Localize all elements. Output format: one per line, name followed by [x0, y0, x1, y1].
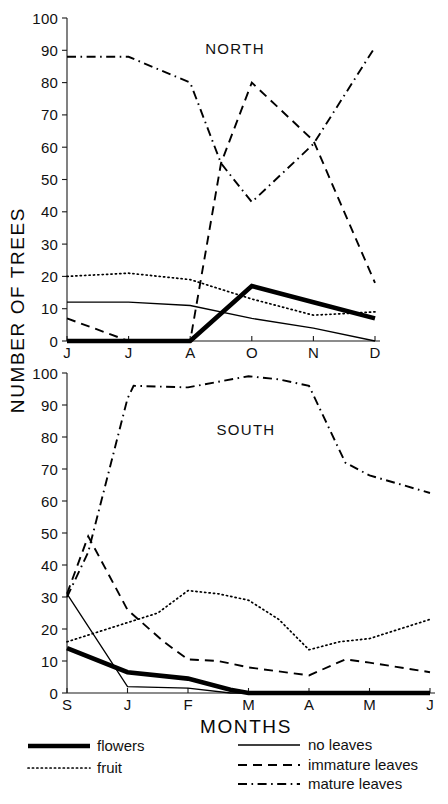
x-tick-label: M: [242, 696, 255, 713]
x-tick-label: D: [370, 344, 381, 361]
y-tick-label: 80: [41, 74, 58, 91]
y-tick-label: 30: [41, 589, 58, 606]
x-tick-label: S: [62, 696, 72, 713]
legend-label-fruit: fruit: [97, 759, 123, 776]
y-tick-label: 20: [41, 621, 58, 638]
y-tick-label: 30: [41, 236, 58, 253]
series-line-fruit-north: [67, 273, 375, 315]
panel-north: 0102030405060708090100JJAONDNORTH: [32, 10, 380, 362]
legend-label-mature-leaves: mature leaves: [308, 775, 402, 792]
y-tick-label: 80: [41, 429, 58, 446]
series-line-mature-leaves-north: [67, 47, 375, 202]
x-tick-label: N: [308, 344, 319, 361]
chart-svg: 0102030405060708090100JJAONDNORTH 010203…: [0, 0, 448, 804]
x-tick-label: O: [246, 344, 258, 361]
series-line-fruit-south: [67, 591, 430, 650]
figure-container: 0102030405060708090100JJAONDNORTH 010203…: [0, 0, 448, 804]
series-line-flowers-north: [67, 286, 375, 341]
x-tick-label: J: [63, 344, 71, 361]
panel-south: 0102030405060708090100SJFMAMJSOUTH: [32, 365, 435, 714]
x-tick-label: J: [124, 696, 132, 713]
y-tick-label: 10: [41, 653, 58, 670]
legend-label-immature-leaves: immature leaves: [308, 756, 418, 773]
y-tick-label: 10: [41, 300, 58, 317]
x-tick-label: J: [125, 344, 133, 361]
y-tick-label: 90: [41, 397, 58, 414]
y-tick-label: 70: [41, 106, 58, 123]
y-tick-label: 50: [41, 525, 58, 542]
x-tick-label: M: [363, 696, 376, 713]
y-tick-label: 100: [32, 10, 58, 27]
x-axis-title: MONTHS: [200, 716, 292, 737]
x-tick-label: J: [426, 696, 434, 713]
y-tick-label: 40: [41, 203, 58, 220]
y-tick-label: 0: [49, 685, 58, 702]
series-line-mature-leaves-south: [67, 376, 430, 597]
panel-title-north: NORTH: [205, 40, 265, 57]
y-tick-label: 0: [49, 333, 58, 350]
series-line-no-leaves-south: [67, 594, 430, 693]
legend-label-no-leaves: no leaves: [308, 736, 372, 753]
x-tick-label: A: [185, 344, 195, 361]
legend-label-flowers: flowers: [97, 737, 145, 754]
y-tick-label: 60: [41, 493, 58, 510]
y-tick-label: 90: [41, 42, 58, 59]
series-line-flowers-south: [67, 648, 430, 693]
x-tick-label: F: [183, 696, 192, 713]
x-tick-label: A: [304, 696, 314, 713]
y-tick-label: 70: [41, 461, 58, 478]
y-tick-label: 50: [41, 171, 58, 188]
series-line-immature-leaves-south: [67, 536, 430, 675]
y-axis-title: NUMBER OF TREES: [7, 207, 28, 413]
legend: flowersfruitno leavesimmature leavesmatu…: [28, 736, 418, 792]
y-tick-label: 100: [32, 365, 58, 382]
y-tick-label: 60: [41, 139, 58, 156]
panel-title-south: SOUTH: [217, 421, 276, 438]
y-tick-label: 20: [41, 268, 58, 285]
y-tick-label: 40: [41, 557, 58, 574]
